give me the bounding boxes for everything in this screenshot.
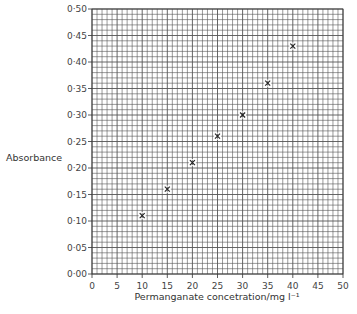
cross-marker-icon xyxy=(289,43,296,50)
x-tick-label: 30 xyxy=(237,281,249,291)
x-tick-label: 5 xyxy=(114,281,120,291)
cross-marker-icon xyxy=(189,159,196,166)
y-axis-title: Absorbance xyxy=(6,152,62,163)
x-tick-label: 10 xyxy=(136,281,148,291)
cross-marker-icon xyxy=(264,80,271,87)
x-axis-title: Permanganate concetration/mg l⁻¹ xyxy=(134,291,299,302)
y-tick-label: 0·00 xyxy=(67,269,87,279)
x-tick-label: 35 xyxy=(262,281,273,291)
y-tick-label: 0·45 xyxy=(67,31,87,41)
scatter-chart: 0·000·050·100·150·200·250·300·350·400·45… xyxy=(0,0,357,314)
y-tick-label: 0·35 xyxy=(67,84,87,94)
x-tick-label: 0 xyxy=(89,281,95,291)
x-tick-label: 50 xyxy=(337,281,349,291)
y-tick-label: 0·05 xyxy=(67,243,87,253)
x-tick-label: 45 xyxy=(312,281,323,291)
cross-marker-icon xyxy=(239,112,246,119)
cross-marker-icon xyxy=(139,212,146,219)
y-tick-label: 0·40 xyxy=(67,57,87,67)
plot-grid xyxy=(92,9,343,274)
x-tick-label: 20 xyxy=(187,281,199,291)
y-tick-label: 0·30 xyxy=(67,110,87,120)
y-tick-label: 0·20 xyxy=(67,163,87,173)
x-tick-label: 15 xyxy=(162,281,173,291)
y-tick-label: 0·50 xyxy=(67,4,87,14)
y-tick-label: 0·10 xyxy=(67,216,87,226)
y-tick-label: 0·15 xyxy=(67,190,87,200)
cross-marker-icon xyxy=(164,186,171,193)
cross-marker-icon xyxy=(214,133,221,140)
y-tick-label: 0·25 xyxy=(67,137,87,147)
x-axis-ticks: 05101520253035404550 xyxy=(89,274,349,291)
y-axis-ticks: 0·000·050·100·150·200·250·300·350·400·45… xyxy=(67,4,92,279)
x-tick-label: 25 xyxy=(212,281,223,291)
x-tick-label: 40 xyxy=(287,281,299,291)
